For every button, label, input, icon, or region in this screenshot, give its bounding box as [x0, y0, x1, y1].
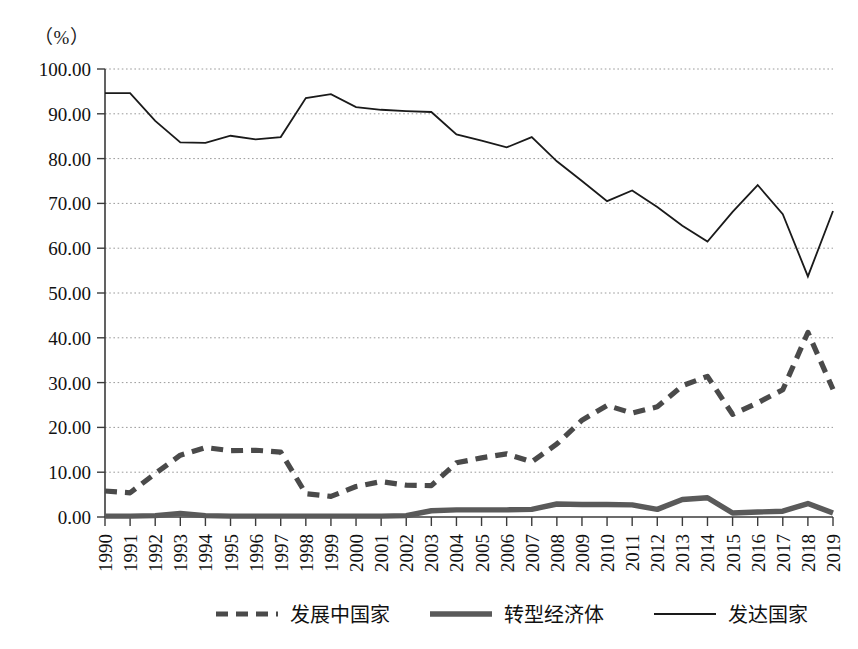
y-tick-label: 100.00 — [39, 59, 91, 80]
x-tick-label: 1998 — [296, 534, 317, 572]
legend-label-2: 转型经济体 — [504, 604, 604, 626]
y-tick-label: 10.00 — [48, 462, 91, 483]
x-tick-label: 1993 — [170, 534, 191, 572]
x-tick-label: 2008 — [547, 534, 568, 572]
gridlines-group — [105, 69, 833, 472]
x-tick-label: 1995 — [221, 534, 242, 572]
x-tick-label: 1992 — [145, 534, 166, 572]
line-chart-svg: 0.0010.0020.0030.0040.0050.0060.0070.008… — [0, 0, 858, 649]
x-tick-label: 2012 — [647, 534, 668, 572]
x-tick-label: 2010 — [597, 534, 618, 572]
chart-container: （%） 0.0010.0020.0030.0040.0050.0060.0070… — [0, 0, 858, 649]
x-tick-label: 1997 — [271, 534, 292, 572]
x-tick-label: 1994 — [195, 534, 216, 573]
series-line-developed — [105, 93, 833, 276]
y-axis-ticks-group: 0.0010.0020.0030.0040.0050.0060.0070.008… — [39, 59, 105, 528]
x-tick-label: 2013 — [672, 534, 693, 572]
x-tick-label: 2018 — [798, 534, 819, 572]
x-tick-label: 1991 — [120, 534, 141, 572]
y-tick-label: 70.00 — [48, 193, 91, 214]
x-tick-label: 2016 — [748, 534, 769, 572]
y-tick-label: 30.00 — [48, 373, 91, 394]
x-tick-label: 2011 — [622, 534, 643, 571]
x-tick-label: 2004 — [446, 534, 467, 573]
x-tick-label: 2006 — [497, 534, 518, 572]
x-tick-label: 2000 — [346, 534, 367, 572]
x-tick-label: 2003 — [421, 534, 442, 572]
x-axis-ticks-group: 1990199119921993199419951996199719981999… — [95, 517, 844, 572]
x-tick-label: 2009 — [572, 534, 593, 572]
y-tick-label: 40.00 — [48, 328, 91, 349]
x-tick-label: 2001 — [371, 534, 392, 572]
x-tick-label: 2017 — [773, 534, 794, 572]
legend-label-3: 发达国家 — [728, 604, 808, 626]
x-tick-label: 1996 — [246, 534, 267, 572]
chart-legend: 发展中国家转型经济体发达国家 — [216, 604, 808, 626]
x-tick-label: 1990 — [95, 534, 116, 572]
series-line-transition — [105, 498, 833, 516]
x-tick-label: 2014 — [697, 534, 718, 573]
y-tick-label: 20.00 — [48, 417, 91, 438]
y-tick-label: 0.00 — [58, 507, 91, 528]
x-tick-label: 2015 — [723, 534, 744, 572]
x-tick-label: 2005 — [472, 534, 493, 572]
y-tick-label: 80.00 — [48, 149, 91, 170]
y-tick-label: 50.00 — [48, 283, 91, 304]
x-tick-label: 2002 — [396, 534, 417, 572]
x-tick-label: 2019 — [823, 534, 844, 572]
y-tick-label: 90.00 — [48, 104, 91, 125]
series-layer — [105, 93, 833, 516]
y-tick-label: 60.00 — [48, 238, 91, 259]
x-tick-label: 1999 — [321, 534, 342, 572]
legend-label-1: 发展中国家 — [290, 604, 390, 626]
x-tick-label: 2007 — [522, 534, 543, 572]
